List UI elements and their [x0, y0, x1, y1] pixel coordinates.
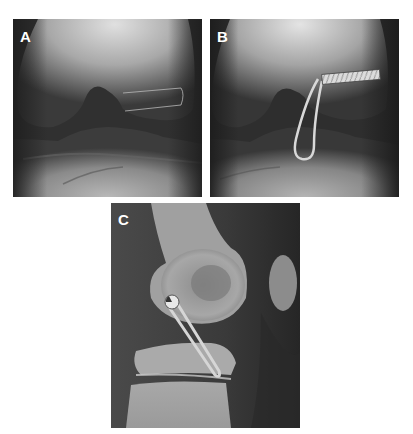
patella: [269, 255, 297, 311]
panel-a-xray: A: [13, 19, 202, 197]
panel-c-xray: C: [111, 203, 300, 428]
panel-label: B: [217, 29, 228, 44]
tibia: [126, 381, 231, 428]
xray-image-c: [111, 203, 300, 428]
cortical-button: [165, 295, 179, 309]
xray-image-a: [13, 19, 202, 197]
xray-image-b: [210, 19, 399, 197]
panel-b-xray: B: [210, 19, 399, 197]
panel-label: C: [118, 212, 129, 227]
panel-label: A: [20, 29, 31, 44]
